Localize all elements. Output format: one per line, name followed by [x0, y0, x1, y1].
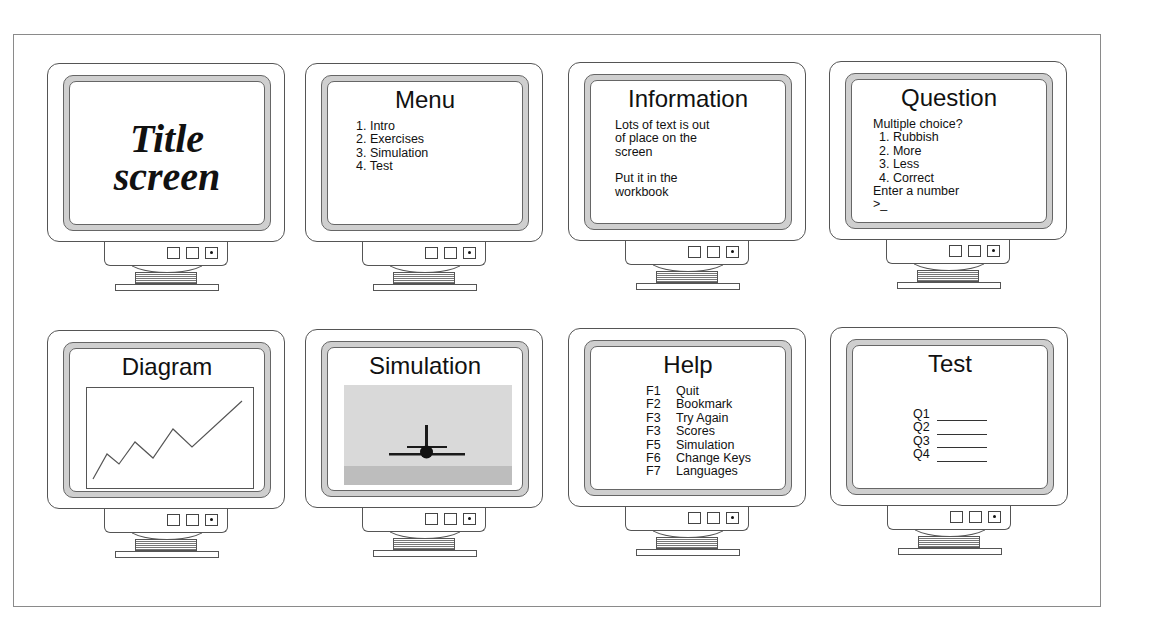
question-label: Q4 [913, 448, 937, 461]
answer-blank [937, 452, 987, 462]
monitor-control-panel [886, 240, 1010, 264]
monitor-neck [135, 539, 197, 551]
monitor-button-icon [950, 511, 963, 523]
bezel-ring: Question Multiple choice? 1. Rubbish 2. … [845, 73, 1053, 229]
option-label: More [893, 144, 921, 158]
monitor-control-panel [625, 241, 749, 265]
answer-blank [937, 411, 987, 421]
monitor-button-icon [186, 514, 199, 526]
text-line: workbook [615, 186, 710, 199]
monitor-button-icon [186, 247, 199, 259]
bezel-ring: Menu 1. Intro 2. Exercises 3. Simulation… [321, 75, 529, 231]
question-prompt: Multiple choice? [873, 118, 963, 131]
power-button-icon [205, 514, 218, 526]
help-row: F2Bookmark [646, 398, 751, 411]
monitor-information: Information Lots of text is out of place… [568, 62, 808, 294]
monitor-base [636, 549, 740, 556]
screen-heading: Question [852, 84, 1046, 112]
text-line: Lots of text is out [615, 119, 710, 132]
monitor-bezel: Simulation [305, 329, 543, 508]
monitor-bezel: Menu 1. Intro 2. Exercises 3. Simulation… [305, 63, 543, 242]
test-question-row: Q4 [913, 448, 987, 461]
menu-item: 1. Intro [356, 120, 428, 133]
monitor-control-panel [104, 509, 228, 533]
option-label: Rubbish [893, 130, 939, 144]
question-instruction: Enter a number [873, 185, 963, 198]
monitor-base [897, 282, 1001, 289]
screen-help: Help F1Quit F2Bookmark F3Try Again F3Sco… [590, 346, 786, 490]
monitor-bezel: Diagram [47, 330, 285, 509]
item-number: 1. [356, 119, 366, 133]
power-button-icon [988, 511, 1001, 523]
title-screen-heading: Title screen [70, 120, 264, 196]
help-row: F3Scores [646, 425, 751, 438]
item-number: 3. [356, 146, 366, 160]
monitor-control-panel [362, 508, 486, 532]
key-action: Bookmark [676, 397, 732, 411]
monitor-neck [656, 537, 718, 549]
power-button-icon [463, 247, 476, 259]
monitor-help: Help F1Quit F2Bookmark F3Try Again F3Sco… [568, 328, 808, 560]
monitor-test: Test Q1 Q2 Q3 Q4 [830, 327, 1070, 559]
test-question-row: Q3 [913, 435, 987, 448]
monitor-button-icon [167, 514, 180, 526]
power-button-icon [205, 247, 218, 259]
help-row: F3Try Again [646, 412, 751, 425]
answer-blank [937, 438, 987, 448]
monitor-neck [393, 538, 455, 550]
menu-item: 2. Exercises [356, 133, 428, 146]
monitor-base [373, 284, 477, 291]
monitor-base [898, 548, 1002, 555]
monitor-diagram: Diagram [47, 330, 287, 562]
monitor-title-screen: Title screen [47, 63, 287, 295]
monitor-control-panel [625, 507, 749, 531]
simulation-viewport [344, 385, 512, 485]
item-number: 4. [356, 159, 366, 173]
chart-line-icon [87, 388, 253, 488]
screen-heading: Simulation [328, 352, 522, 380]
key-action: Change Keys [676, 451, 751, 465]
monitor-control-panel [104, 242, 228, 266]
function-key: F1 [646, 385, 676, 398]
monitor-bezel: Help F1Quit F2Bookmark F3Try Again F3Sco… [568, 328, 806, 507]
help-key-list: F1Quit F2Bookmark F3Try Again F3Scores F… [646, 385, 751, 479]
monitor-neck [656, 271, 718, 283]
key-action: Languages [676, 464, 738, 478]
test-question-row: Q2 [913, 421, 987, 434]
monitor-button-icon [688, 246, 701, 258]
monitor-bezel: Information Lots of text is out of place… [568, 62, 806, 241]
screen-title: Title screen [69, 81, 265, 225]
text-line: Put it in the [615, 172, 710, 185]
monitor-base [115, 551, 219, 558]
answer-blank [937, 425, 987, 435]
item-label: Exercises [370, 132, 424, 146]
title-line-2: screen [70, 158, 264, 196]
monitor-button-icon [167, 247, 180, 259]
menu-item: 4. Test [356, 160, 428, 173]
screen-heading: Test [853, 350, 1047, 378]
monitor-button-icon [969, 511, 982, 523]
text-line: of place on the [615, 132, 710, 145]
monitor-bezel: Test Q1 Q2 Q3 Q4 [830, 327, 1068, 506]
answer-option: 2. More [873, 145, 963, 158]
line-chart [86, 387, 254, 489]
function-key: F7 [646, 465, 676, 478]
key-action: Simulation [676, 438, 734, 452]
screen-test: Test Q1 Q2 Q3 Q4 [852, 345, 1048, 489]
monitor-simulation: Simulation [305, 329, 545, 561]
monitor-base [373, 550, 477, 557]
option-number: 1. [879, 130, 889, 144]
monitor-button-icon [707, 512, 720, 524]
help-row: F6Change Keys [646, 452, 751, 465]
screen-heading: Information [591, 85, 785, 113]
key-action: Quit [676, 384, 699, 398]
bezel-ring: Title screen [63, 75, 271, 231]
monitor-button-icon [688, 512, 701, 524]
power-button-icon [463, 513, 476, 525]
option-number: 3. [879, 157, 889, 171]
monitor-control-panel [362, 242, 486, 266]
screen-information: Information Lots of text is out of place… [590, 80, 786, 224]
monitor-button-icon [425, 247, 438, 259]
power-button-icon [726, 246, 739, 258]
monitor-button-icon [425, 513, 438, 525]
